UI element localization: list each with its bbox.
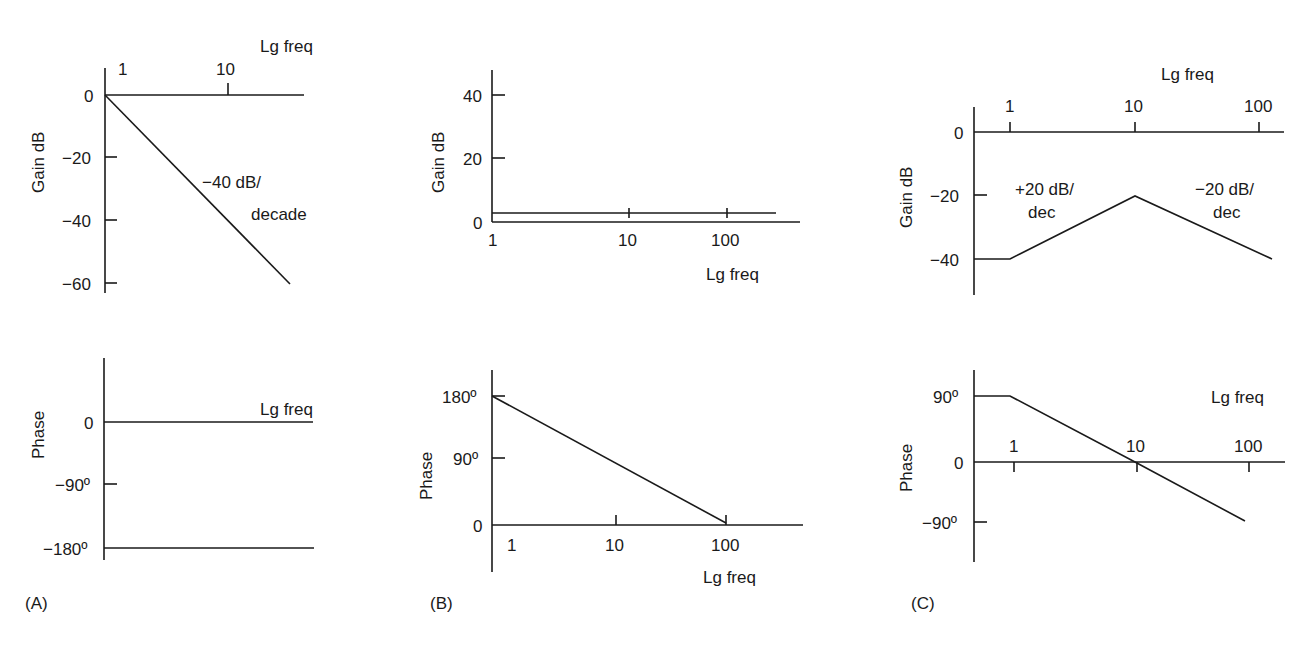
panel-a-gain-xtick-1: 1	[118, 60, 127, 79]
panel-c-phase-xtick-10: 10	[1126, 437, 1145, 456]
panel-a-gain-ytick-m20: −20	[62, 149, 91, 168]
panel-a-phase-ytick-m90: −90º	[55, 476, 90, 495]
panel-b-gain-xtick-10: 10	[618, 231, 637, 250]
panel-b-phase-ytick-180: 180º	[442, 388, 477, 407]
panel-c-gain-xtick-100: 100	[1244, 97, 1272, 116]
panel-b-phase-ytick-0: 0	[473, 517, 482, 536]
panel-b-phase-xtick-1: 1	[507, 536, 516, 555]
panel-c-gain-ytick-m40: −40	[930, 251, 959, 270]
panel-b-phase-ylabel: Phase	[417, 452, 436, 500]
panel-b-gain-xtick-100: 100	[711, 231, 739, 250]
panel-a-gain-slope-note-2: decade	[251, 205, 307, 224]
panel-b-gain-xlabel: Lg freq	[706, 265, 759, 284]
panel-b-gain-ytick-40: 40	[463, 87, 482, 106]
panel-b-gain-ylabel: Gain dB	[429, 132, 448, 193]
panel-b-phase-xtick-100: 100	[711, 536, 739, 555]
panel-c-gain-note-left-2: dec	[1028, 203, 1056, 222]
panel-c-phase-ytick-0: 0	[954, 454, 963, 473]
panel-c-phase-plot: Lg freq 1 10 100 90º 0 −90º Phase	[897, 370, 1285, 562]
panel-b-gain-ytick-20: 20	[463, 150, 482, 169]
bode-plots-figure: 1 10 Lg freq 0 −20 −40 −60 Gain dB −40 d…	[0, 0, 1315, 645]
panel-c-gain-ylabel: Gain dB	[897, 167, 916, 228]
panel-b-gain-plot: 40 20 0 1 10 100 Lg freq Gain dB	[429, 70, 800, 284]
panel-a-gain-xtick-10: 10	[216, 60, 235, 79]
panel-c-phase-ytick-m90: −90º	[922, 514, 957, 533]
panel-c-phase-line	[974, 396, 1245, 521]
panel-a-gain-ylabel: Gain dB	[29, 132, 48, 193]
panel-b-phase-xlabel: Lg freq	[703, 568, 756, 587]
panel-c-label: (C)	[911, 594, 935, 613]
panel-c-phase-xlabel: Lg freq	[1211, 388, 1264, 407]
panel-a-label: (A)	[25, 594, 48, 613]
panel-c-gain-xlabel: Lg freq	[1161, 65, 1214, 84]
panel-b-phase-ytick-90: 90º	[453, 450, 478, 469]
panel-c-phase-ytick-90: 90º	[933, 388, 958, 407]
panel-a-phase-ylabel: Phase	[29, 411, 48, 459]
panel-c-gain-plot: Lg freq 1 10 100 0 −20 −40 Gain dB +20 d…	[897, 65, 1284, 295]
panel-a-gain-slope-note-1: −40 dB/	[202, 173, 261, 192]
panel-c-gain-xtick-10: 10	[1124, 97, 1143, 116]
panel-a-phase-ytick-0: 0	[84, 414, 93, 433]
panel-b-phase-xtick-10: 10	[605, 536, 624, 555]
panel-b-phase-line	[492, 396, 726, 523]
panel-c-gain-note-right-1: −20 dB/	[1195, 180, 1254, 199]
panel-b-gain-ytick-0: 0	[473, 214, 482, 233]
panel-c-phase-ylabel: Phase	[897, 444, 916, 492]
panel-a-phase-xlabel: Lg freq	[260, 400, 313, 419]
panel-a-phase-ytick-m180: −180º	[43, 540, 88, 559]
panel-c-phase-xtick-100: 100	[1234, 437, 1262, 456]
panel-a-gain-ytick-m40: −40	[62, 212, 91, 231]
panel-c-gain-ytick-m20: −20	[930, 187, 959, 206]
panel-a-gain-asymptote	[105, 95, 290, 284]
panel-b-label: (B)	[430, 594, 453, 613]
panel-a-gain-plot: 1 10 Lg freq 0 −20 −40 −60 Gain dB −40 d…	[29, 37, 313, 294]
panel-b-phase-plot: 180º 90º 0 1 10 100 Lg freq Phase	[417, 370, 803, 587]
panel-c-gain-xtick-1: 1	[1005, 97, 1014, 116]
panel-a-gain-xlabel: Lg freq	[260, 37, 313, 56]
panel-a-gain-ytick-0: 0	[84, 87, 93, 106]
panel-c-gain-ytick-0: 0	[954, 124, 963, 143]
panel-c-gain-note-right-2: dec	[1213, 203, 1241, 222]
panel-c-gain-note-left-1: +20 dB/	[1015, 180, 1074, 199]
panel-c-phase-xtick-1: 1	[1009, 437, 1018, 456]
panel-a-gain-ytick-m60: −60	[62, 275, 91, 294]
panel-a-phase-plot: Lg freq 0 −90º −180º Phase	[29, 358, 314, 560]
panel-b-gain-xtick-1: 1	[488, 231, 497, 250]
